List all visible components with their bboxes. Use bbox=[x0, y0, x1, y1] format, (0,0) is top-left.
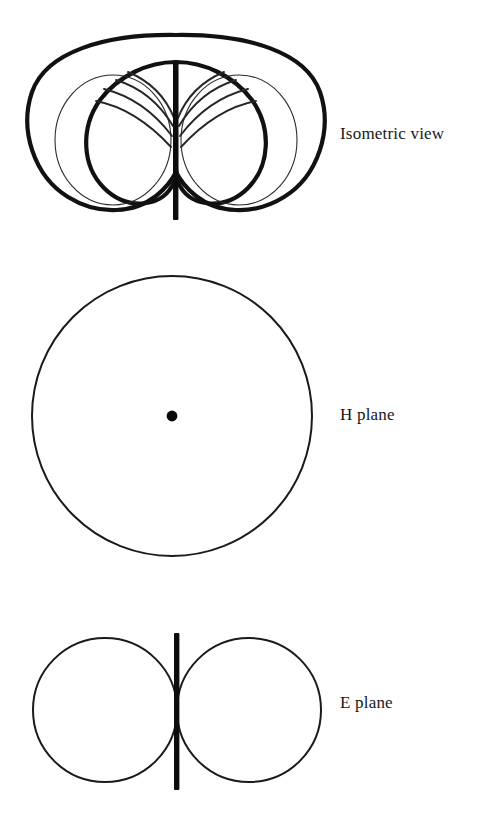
label-h-plane: H plane bbox=[340, 406, 395, 423]
e-plane-lobe-left bbox=[33, 638, 177, 782]
field-line-right-1 bbox=[178, 72, 224, 118]
e-plane-pattern-drawing bbox=[0, 580, 485, 823]
cross-section-ellipse-left bbox=[55, 75, 171, 205]
dipole-element-isometric bbox=[173, 62, 178, 220]
field-line-left-2 bbox=[116, 80, 173, 126]
label-isometric-view: Isometric view bbox=[340, 125, 444, 142]
dipole-end-on-dot bbox=[167, 411, 178, 422]
field-line-left-1 bbox=[128, 72, 174, 118]
h-plane-pattern-drawing bbox=[0, 260, 485, 580]
label-e-plane: E plane bbox=[340, 694, 393, 711]
field-line-right-2 bbox=[179, 80, 236, 126]
lobe-left-outline bbox=[86, 62, 176, 204]
panel-e-plane: E plane bbox=[0, 580, 485, 823]
panel-isometric-view: Isometric view bbox=[0, 0, 485, 260]
lobe-right-outline bbox=[176, 62, 266, 204]
antenna-pattern-figure: Isometric view H plane E plane bbox=[0, 0, 485, 823]
cross-section-ellipse-right bbox=[181, 75, 297, 205]
e-plane-lobe-right bbox=[177, 638, 321, 782]
dipole-element-e-plane bbox=[174, 633, 179, 790]
panel-h-plane: H plane bbox=[0, 260, 485, 580]
